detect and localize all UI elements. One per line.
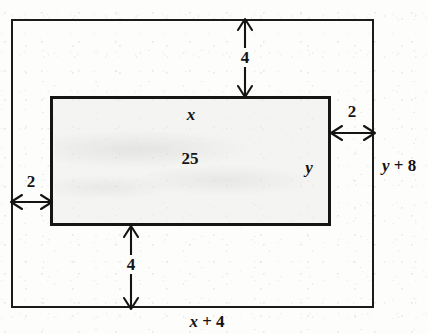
inner-right-label: y bbox=[305, 159, 313, 176]
gap-left-arrow bbox=[9, 190, 54, 214]
outer-right-variable: y bbox=[382, 156, 390, 175]
outer-right-operator: + bbox=[390, 156, 408, 175]
outer-bottom-label: x + 4 bbox=[189, 313, 224, 330]
gap-top-label: 4 bbox=[238, 48, 253, 67]
gap-left-label: 2 bbox=[27, 173, 36, 190]
outer-bottom-constant: 4 bbox=[216, 312, 225, 331]
gap-right-arrow bbox=[329, 121, 377, 145]
outer-bottom-operator: + bbox=[198, 312, 216, 331]
geometry-figure: 4 4 2 2 x 25 y x + 4 y + 8 bbox=[0, 0, 428, 334]
outer-bottom-variable: x bbox=[189, 312, 198, 331]
outer-right-label: y + 8 bbox=[382, 157, 416, 174]
inner-area-label: 25 bbox=[182, 150, 199, 167]
outer-right-constant: 8 bbox=[408, 156, 417, 175]
gap-right-label: 2 bbox=[348, 103, 357, 120]
inner-top-label: x bbox=[187, 106, 196, 123]
gap-bottom-label: 4 bbox=[124, 255, 139, 274]
